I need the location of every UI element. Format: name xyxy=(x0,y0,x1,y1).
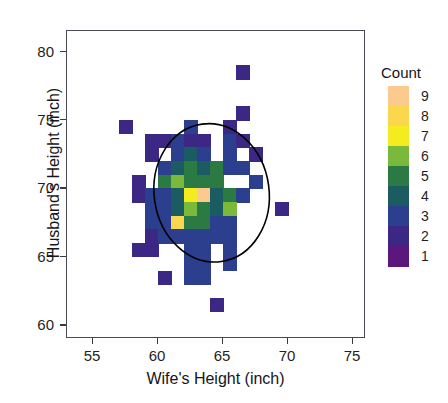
legend-swatch xyxy=(388,86,409,107)
confidence-ellipse xyxy=(145,116,278,269)
legend-title: Count xyxy=(381,64,421,81)
legend-tick-label: 7 xyxy=(421,128,429,144)
legend-swatch xyxy=(388,186,409,207)
x-tick-mark xyxy=(157,338,158,344)
x-tick-label: 70 xyxy=(279,347,296,364)
y-axis-title: Husband's Height (inch) xyxy=(45,23,63,323)
legend-swatch xyxy=(388,146,409,167)
legend-tick-label: 2 xyxy=(421,228,429,244)
x-tick-label: 60 xyxy=(149,347,166,364)
legend-tick-label: 1 xyxy=(421,248,429,264)
legend-tick-label: 5 xyxy=(421,168,429,184)
x-tick-mark xyxy=(222,338,223,344)
legend-swatch xyxy=(388,206,409,227)
x-tick-mark xyxy=(352,338,353,344)
plot-panel xyxy=(66,30,365,338)
legend-colorbar: 987654321 xyxy=(388,86,409,266)
legend-tick-label: 3 xyxy=(421,208,429,224)
x-tick-mark xyxy=(92,338,93,344)
legend-swatch xyxy=(388,226,409,247)
x-tick-label: 65 xyxy=(214,347,231,364)
legend-swatch xyxy=(388,106,409,127)
legend: Count 987654321 xyxy=(381,64,448,284)
x-tick-mark xyxy=(287,338,288,344)
heatmap-figure: 5560657075 6065707580 Wife's Height (inc… xyxy=(0,0,448,403)
x-tick-label: 75 xyxy=(344,347,361,364)
legend-tick-label: 8 xyxy=(421,108,429,124)
x-tick-label: 55 xyxy=(84,347,101,364)
y-tick-mark xyxy=(60,324,66,325)
legend-tick-label: 4 xyxy=(421,188,429,204)
x-axis-title: Wife's Height (inch) xyxy=(66,370,365,388)
legend-swatch xyxy=(388,166,409,187)
legend-swatch xyxy=(388,246,409,267)
legend-tick-label: 6 xyxy=(421,148,429,164)
ellipse-overlay-layer xyxy=(67,31,364,337)
legend-swatch xyxy=(388,126,409,147)
legend-tick-label: 9 xyxy=(421,88,429,104)
